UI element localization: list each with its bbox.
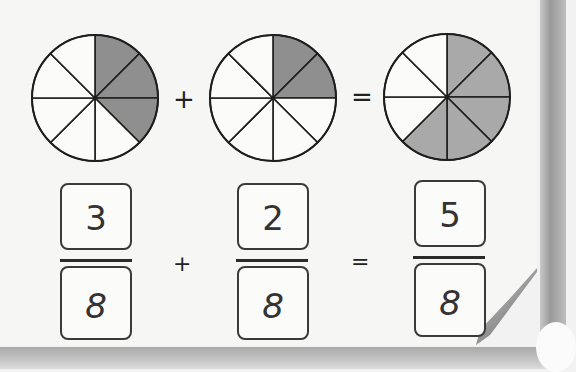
denominator-box-1: 8 — [60, 266, 132, 340]
denominator-box-2: 8 — [237, 266, 309, 340]
fraction-bar-3 — [413, 256, 485, 259]
equals-sign-top: = — [351, 84, 373, 110]
numerator-box-1: 3 — [60, 183, 132, 250]
fraction-circle-2-eighths — [210, 35, 336, 161]
numerator-box-2: 2 — [237, 183, 309, 250]
plus-sign-top: + — [173, 86, 195, 112]
fraction-circle-3-eighths — [32, 35, 158, 161]
numerator-box-3: 5 — [414, 180, 486, 247]
plus-sign-bottom: + — [173, 253, 191, 275]
denominator-box-3: 8 — [414, 263, 486, 337]
fraction-circle-5-eighths — [384, 34, 510, 160]
equals-sign-bottom: = — [351, 251, 369, 273]
fraction-bar-2 — [236, 259, 308, 262]
fraction-bar-1 — [60, 259, 132, 262]
